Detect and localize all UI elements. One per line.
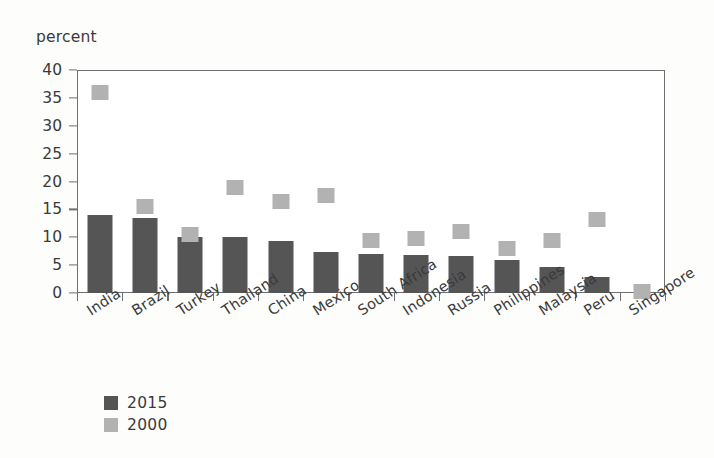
bar-group [484,0,529,293]
y-axis-tick-mark [69,125,77,126]
y-axis-tick-mark [69,69,77,70]
y-axis-tick-mark [69,292,77,293]
bar-2015 [132,218,157,293]
bar-2015 [178,237,203,293]
marker-2000 [453,224,470,239]
y-axis-tick-mark [69,237,77,238]
marker-2000 [272,194,289,209]
marker-2000 [498,241,515,256]
bar-group [303,0,348,293]
bar-group [213,0,258,293]
chart-figure: percent 4035302520151050 20152000 IndiaB… [0,0,714,458]
marker-2000 [182,227,199,242]
x-axis-tick-mark [77,293,78,301]
marker-2000 [408,231,425,246]
marker-2000 [136,199,153,214]
bar-2015 [313,252,338,293]
y-axis-tick-mark [69,209,77,210]
bar-group [77,0,122,293]
bar-2015 [223,237,248,293]
bars-layer [0,0,714,458]
bar-group [348,0,393,293]
bar-group [258,0,303,293]
marker-2000 [317,188,334,203]
bar-2015 [358,254,383,293]
bar-group [620,0,665,293]
y-axis-tick-mark [69,153,77,154]
bar-group [394,0,439,293]
marker-2000 [362,233,379,248]
marker-2000 [589,212,606,227]
y-axis-tick-mark [69,181,77,182]
bar-group [439,0,484,293]
legend-swatch-icon [104,418,118,432]
bar-2015 [87,215,112,293]
legend-item: 2015 [104,392,168,414]
legend-label: 2015 [127,394,168,412]
marker-2000 [543,233,560,248]
bar-group [122,0,167,293]
marker-2000 [227,180,244,195]
y-axis-tick-mark [69,97,77,98]
chart-legend: 20152000 [104,392,168,436]
y-axis-tick-mark [69,265,77,266]
bar-group [529,0,574,293]
legend-label: 2000 [127,416,168,434]
marker-2000 [91,85,108,100]
bar-group [575,0,620,293]
legend-item: 2000 [104,414,168,436]
legend-swatch-icon [104,396,118,410]
x-axis-tick-mark [620,293,621,301]
bar-group [167,0,212,293]
